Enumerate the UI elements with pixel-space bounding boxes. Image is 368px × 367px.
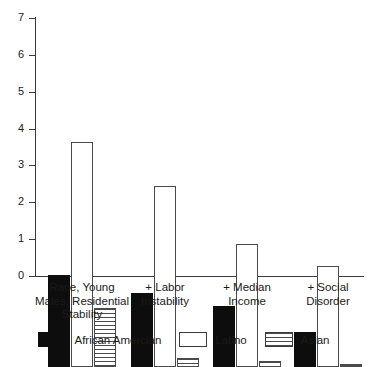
y-axis-tick bbox=[29, 202, 36, 203]
bar-group bbox=[48, 109, 116, 367]
legend-label: African Amercian bbox=[74, 334, 161, 346]
y-axis-tick bbox=[29, 55, 36, 56]
y-axis-tick bbox=[29, 18, 36, 19]
y-axis-tick-label: 3 bbox=[0, 159, 24, 170]
y-axis-tick-label: 6 bbox=[0, 49, 24, 60]
legend-label: Latino bbox=[215, 334, 246, 346]
legend-swatch bbox=[265, 332, 293, 347]
y-axis-line bbox=[35, 17, 36, 277]
y-axis-tick-label: 2 bbox=[0, 196, 24, 207]
bar-group bbox=[131, 109, 199, 367]
y-axis-tick-label: 1 bbox=[0, 233, 24, 244]
y-axis-tick-label: 4 bbox=[0, 123, 24, 134]
y-axis-tick bbox=[29, 129, 36, 130]
bar-group bbox=[294, 109, 362, 367]
y-axis-tick-label: 0 bbox=[0, 270, 24, 281]
legend-item: Latino bbox=[179, 332, 246, 347]
y-axis-tick bbox=[29, 92, 36, 93]
legend-item: Asian bbox=[265, 332, 330, 347]
legend-label: Asian bbox=[301, 334, 330, 346]
bar-chart: 01234567 Race, Young Males, Residential … bbox=[0, 0, 368, 367]
legend-swatch bbox=[179, 332, 207, 347]
x-axis-category-label: + Social Disorder bbox=[276, 281, 368, 308]
y-axis-tick bbox=[29, 239, 36, 240]
y-axis-tick-label: 7 bbox=[0, 12, 24, 23]
bar-group bbox=[213, 109, 281, 367]
y-axis-tick-label: 5 bbox=[0, 86, 24, 97]
bar bbox=[177, 358, 199, 367]
chart-legend: African AmercianLatinoAsian bbox=[0, 332, 368, 347]
legend-swatch bbox=[38, 332, 66, 347]
y-axis-tick bbox=[29, 165, 36, 166]
legend-item: African Amercian bbox=[38, 332, 161, 347]
y-axis-tick bbox=[29, 276, 36, 277]
bar bbox=[259, 361, 281, 367]
